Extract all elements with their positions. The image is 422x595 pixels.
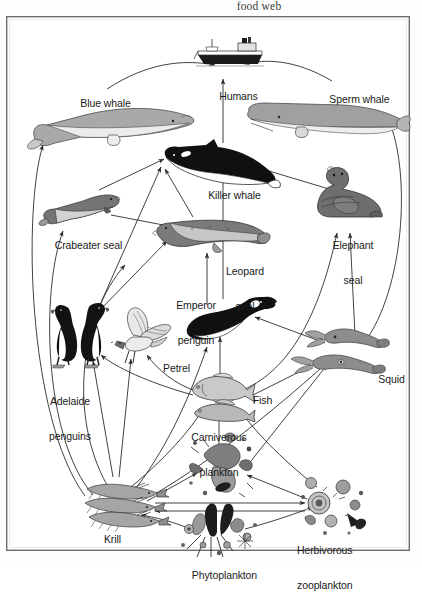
node-label-blue-whale: Blue whale — [53, 86, 141, 121]
node-label-carniverous-plankton: Carniverous plankton — [171, 409, 267, 501]
node-label-adelaide-penguins: Adelaide penguins — [29, 373, 111, 465]
label-line: Herbivorous — [297, 545, 391, 557]
phytoplankton-icon — [177, 501, 261, 559]
node-label-squid: Squid — [359, 362, 407, 397]
label-line: plankton — [171, 467, 267, 479]
node-label-petrel: Petrel — [138, 351, 198, 386]
node-label-herbivorous-zooplankton: Herbivorous zooplankton — [297, 522, 391, 595]
node-label-sperm-whale: Sperm whale — [303, 82, 399, 117]
label-line: Adelaide — [29, 396, 111, 408]
label-line: Elephant — [310, 240, 396, 252]
node-label-krill: Krill — [81, 522, 127, 557]
label-line: Leopard — [210, 266, 280, 278]
figure-caption: food web — [0, 0, 422, 12]
label-line: Emperor — [156, 300, 236, 312]
label-line: penguin — [156, 335, 236, 347]
crabeater-seal-icon — [37, 189, 123, 229]
label-line: penguins — [29, 431, 111, 443]
ship-icon — [192, 35, 268, 69]
label-line: Carniverous — [171, 432, 267, 444]
elephant-seal-icon — [312, 165, 390, 221]
node-label-phytoplankton: Phytoplankton — [167, 558, 265, 593]
diagram-frame: Humans Blue whale Sperm whale Killer wha… — [6, 16, 410, 551]
label-line: seal — [310, 275, 396, 287]
node-label-crabeater-seal: Crabeater seal — [28, 228, 132, 263]
node-label-humans: Humans — [190, 79, 270, 114]
label-line: zooplankton — [297, 580, 391, 592]
adelaide-penguins-icon — [49, 297, 111, 369]
node-label-killer-whale: Killer whale — [181, 178, 271, 213]
node-label-elephant-seal: Elephant seal — [310, 217, 396, 309]
